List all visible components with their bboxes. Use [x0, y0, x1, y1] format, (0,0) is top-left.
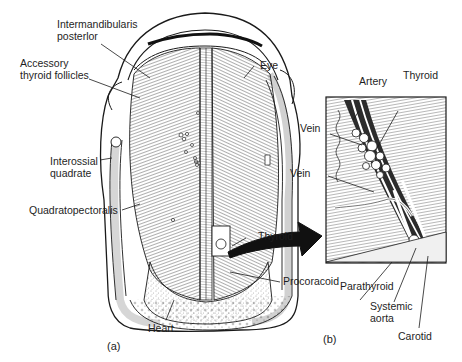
label-eye: Eye [260, 59, 278, 71]
label-quadratopectoralis: Quadratopectoralis [29, 204, 118, 216]
panel-label-b: (b) [323, 333, 336, 345]
muscle-left [130, 48, 200, 300]
label-parathyroid: Parathyroid [340, 280, 394, 292]
label-interossial-quadrate: Interossial quadrate [50, 155, 98, 179]
panel-label-a: (a) [107, 340, 120, 352]
label-vein-lower: Vein [290, 167, 310, 179]
label-intermandibularis-posterior: Intermandibularis posterlor [57, 18, 138, 42]
eye-left-bulge [108, 82, 122, 110]
label-procoracoid: Procoracoid [283, 275, 339, 287]
label-thyroid-b: Thyroid [403, 69, 438, 81]
label-systemic-aorta: Systemic aorta [370, 300, 413, 324]
interossial-joint [111, 137, 121, 147]
label-carotid: Carotid [398, 330, 432, 342]
label-artery: Artery [359, 75, 387, 87]
label-thyroid-a: Thyroid [258, 230, 293, 242]
jaw-dark-band [148, 34, 262, 46]
label-accessory-thyroid-follicles: Accessory thyroid follicles [20, 57, 89, 81]
panel-b-drawing [326, 97, 446, 263]
label-heart: Heart [148, 322, 174, 334]
label-vein-upper: Vein [300, 122, 320, 134]
